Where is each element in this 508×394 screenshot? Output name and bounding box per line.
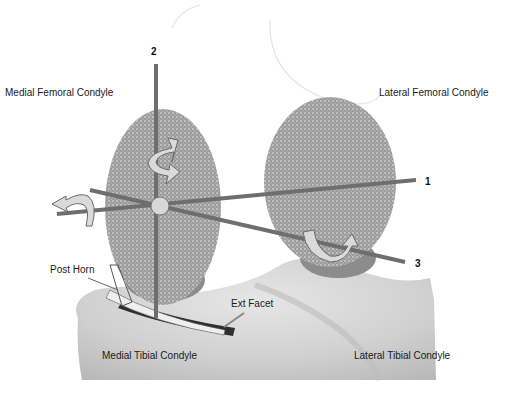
lateral-tibial-condyle-label: Lateral Tibial Condyle <box>354 350 450 362</box>
femur-outline <box>172 5 380 104</box>
post-horn-leader <box>88 278 118 290</box>
axis-intersection <box>151 197 169 215</box>
post-horn-label: Post Horn <box>50 264 94 276</box>
diagram-canvas <box>0 0 508 394</box>
axis-3-label: 3 <box>415 258 421 270</box>
rotation-arrow-axis-1 <box>52 195 94 226</box>
medial-tibial-condyle-label: Medial Tibial Condyle <box>102 350 197 362</box>
lateral-femoral-condyle-label: Lateral Femoral Condyle <box>379 87 489 99</box>
ext-facet-label: Ext Facet <box>231 298 273 310</box>
axis-1-label: 1 <box>425 176 431 188</box>
knee-axes-diagram: 2 1 3 Medial Femoral Condyle Lateral Fem… <box>0 0 508 394</box>
axis-2-label: 2 <box>151 46 157 58</box>
medial-femoral-condyle-label: Medial Femoral Condyle <box>5 87 113 99</box>
